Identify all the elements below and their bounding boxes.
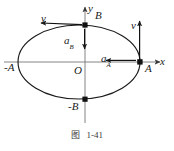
acceleration-label-at-A: aA xyxy=(101,53,111,67)
acceleration-subscript-A: A xyxy=(107,61,111,68)
acceleration-subscript-B: B xyxy=(70,43,74,50)
y-axis-label: y xyxy=(88,3,93,14)
point-marker-neg-B xyxy=(82,97,87,102)
caption-number: 1-41 xyxy=(87,130,104,140)
figure-container: y x O B -B A -A v v aB aA 图1-41 xyxy=(0,0,174,151)
point-label-neg-B: -B xyxy=(68,101,78,112)
acceleration-label-at-B: aB xyxy=(64,35,74,49)
point-label-neg-A: -A xyxy=(4,62,14,73)
acceleration-symbol-B: a xyxy=(64,34,70,46)
point-label-B: B xyxy=(95,10,102,21)
point-marker-B xyxy=(82,22,87,27)
velocity-label-at-B: v xyxy=(41,13,46,24)
x-axis-label: x xyxy=(160,56,165,67)
figure-caption: 图1-41 xyxy=(0,128,174,141)
velocity-label-at-A: v xyxy=(131,20,136,31)
caption-label: 图 xyxy=(71,130,81,140)
velocity-vector-at-B xyxy=(41,23,82,25)
acceleration-symbol-A: a xyxy=(101,52,107,64)
origin-label: O xyxy=(74,65,82,76)
point-label-A: A xyxy=(145,63,152,74)
